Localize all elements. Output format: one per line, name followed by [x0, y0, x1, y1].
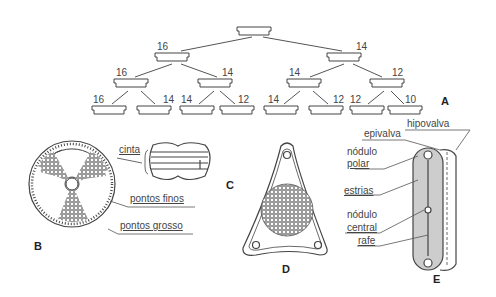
label-nodulo-central-1: nódulo	[347, 210, 377, 220]
tree-l3-count-2: 14	[163, 95, 174, 105]
figure-letter-d: D	[282, 263, 290, 275]
centric-diatom-fill	[38, 151, 108, 222]
tree-l3-count-1: 16	[93, 95, 104, 105]
tree-l1-count-1: 16	[157, 42, 168, 52]
label-rafe: rafe	[358, 236, 375, 246]
label-hipovalva: hipovalva	[407, 119, 449, 129]
tree-l1-count-2: 14	[356, 42, 367, 52]
diatom-figures	[0, 0, 496, 297]
tree-l3-count-5: 14	[268, 95, 279, 105]
tree-l2-count-4: 12	[392, 68, 403, 78]
tree-l2-count-3: 14	[289, 68, 300, 78]
label-pontos-finos: pontos finos	[130, 194, 184, 204]
label-cinta: cinta	[119, 145, 140, 155]
figure-letter-b: B	[34, 240, 42, 252]
pennate-diatom	[413, 148, 456, 270]
figure-letter-c: C	[226, 179, 234, 191]
tree-l3-count-3: 14	[181, 95, 192, 105]
figure-letter-a: A	[441, 95, 449, 107]
tree-l3-count-8: 10	[405, 95, 416, 105]
label-epivalva: epivalva	[364, 129, 401, 139]
tree-l3-count-7: 12	[350, 95, 361, 105]
triangular-diatom	[243, 143, 327, 255]
label-pontos-grosso: pontos grosso	[120, 221, 183, 231]
label-nodulo-polar-1: nódulo	[347, 147, 377, 157]
tree-l2-count-1: 16	[116, 68, 127, 78]
division-tree	[92, 27, 422, 114]
label-nodulo-central-2: central	[347, 223, 377, 233]
label-estrias: estrias	[344, 186, 373, 196]
tree-l3-count-4: 12	[238, 95, 249, 105]
label-nodulo-polar-2: polar	[347, 159, 369, 169]
figure-letter-e: E	[433, 273, 440, 285]
tree-l3-count-6: 12	[333, 95, 344, 105]
tree-l2-count-2: 14	[222, 68, 233, 78]
